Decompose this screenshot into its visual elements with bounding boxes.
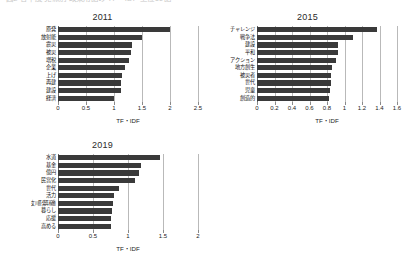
category-label: 創造的 <box>240 96 255 101</box>
category-label: 児童 <box>245 88 255 93</box>
bar <box>58 42 132 47</box>
x-tick-label: 1.4 <box>375 105 383 112</box>
category-label: 水道 <box>46 155 56 160</box>
category-label: 基金 <box>46 163 56 168</box>
bar-row: 建設 <box>257 42 397 47</box>
bar-row: 水道 <box>58 155 198 160</box>
bar-row: チャレンジ <box>257 27 397 32</box>
category-label: 応援 <box>46 216 56 221</box>
bar-row: 世代 <box>257 80 397 85</box>
x-tick-label: 1.6 <box>393 105 401 112</box>
bar <box>257 96 329 101</box>
bar <box>58 163 141 168</box>
bar-row: アクション <box>257 58 397 63</box>
bar <box>257 73 331 78</box>
bar-row: 基金 <box>58 163 198 168</box>
category-label: 億円 <box>46 170 56 175</box>
x-tick-label: 0.5 <box>82 105 90 112</box>
plot-area-2019: 水道基金億円民営化世代活力女川原発再稼働暮らし応援高める <box>58 154 198 230</box>
x-axis-title-2019: TF・IDF <box>28 244 228 253</box>
x-tick-label: 0 <box>255 105 258 112</box>
category-label: 建設 <box>46 88 56 93</box>
bar <box>58 27 170 32</box>
bar <box>257 35 353 40</box>
x-tick-label: 1.5 <box>138 105 146 112</box>
chart-title-2015: 2015 <box>205 12 410 22</box>
bar-row: 被災 <box>58 50 198 55</box>
category-label: 上げ <box>46 73 56 78</box>
chart-panel-2011: 2011 原発放射能震災被災増税企業上げ再建建設経済 00.511.522.5 … <box>0 12 205 132</box>
bar <box>257 58 336 63</box>
category-label: 震災 <box>46 42 56 47</box>
chart-title-2019: 2019 <box>0 140 205 150</box>
x-tick-label: 0.8 <box>323 105 331 112</box>
bar-row: 創造的 <box>257 96 397 101</box>
bar <box>257 50 338 55</box>
bar <box>58 216 111 221</box>
bar <box>58 208 112 213</box>
category-label: 地方創生 <box>235 65 255 70</box>
bar-row: 被災者 <box>257 73 397 78</box>
bar <box>58 170 139 175</box>
bar-row: 暮らし <box>58 208 198 213</box>
category-label: 被災者 <box>240 73 255 78</box>
category-label: 活力 <box>46 193 56 198</box>
category-label: 建設 <box>245 42 255 47</box>
bar-row: 企業 <box>58 65 198 70</box>
bar-row: 震災 <box>58 42 198 47</box>
category-label: アクション <box>230 58 255 63</box>
bar <box>58 80 121 85</box>
category-label: 経済 <box>46 96 56 101</box>
category-label: 被災 <box>46 50 56 55</box>
category-label: 女川原発再稼働 <box>31 201 56 206</box>
bar <box>257 65 332 70</box>
bars-2011: 原発放射能震災被災増税企業上げ再建建設経済 <box>58 26 198 102</box>
plot-area-2015: チャレンジ戦争法建設平和アクション地方創生被災者世代児童創造的 <box>257 26 397 102</box>
x-tick-label: 1.2 <box>358 105 366 112</box>
bar-row: 地方創生 <box>257 65 397 70</box>
category-label: 企業 <box>46 65 56 70</box>
figure-caption: 図2 各年度 党派別 政策用語の TF・IDF 上位10語 <box>0 0 410 12</box>
bar-row: 女川原発再稼働 <box>58 201 198 206</box>
bar-row: 原発 <box>58 27 198 32</box>
bar-row: 上げ <box>58 73 198 78</box>
bar <box>257 27 377 32</box>
figure-root: 図2 各年度 党派別 政策用語の TF・IDF 上位10語 2011 原発放射能… <box>0 0 410 268</box>
bar-row: 応援 <box>58 216 198 221</box>
bar <box>58 50 131 55</box>
x-tick-label: 0.5 <box>89 233 97 240</box>
category-label: 暮らし <box>41 208 56 213</box>
bar <box>58 35 142 40</box>
bar <box>58 193 114 198</box>
x-tick-label: 1 <box>112 105 115 112</box>
category-label: 高める <box>41 224 56 229</box>
x-tick-label: 2 <box>196 233 199 240</box>
x-tick-label: 0 <box>56 105 59 112</box>
bar-row: 世代 <box>58 186 198 191</box>
bar <box>58 88 121 93</box>
category-label: 民営化 <box>41 178 56 183</box>
chart-title-2011: 2011 <box>0 12 205 22</box>
x-axis-title-2011: TF・IDF <box>28 116 228 125</box>
x-tick-label: 1 <box>126 233 129 240</box>
chart-panel-2019: 2019 水道基金億円民営化世代活力女川原発再稼働暮らし応援高める 00.511… <box>0 140 205 260</box>
x-tick-label: 1 <box>343 105 346 112</box>
bar <box>58 96 114 101</box>
category-label: チャレンジ <box>230 27 255 32</box>
bar-row: 戦争法 <box>257 35 397 40</box>
figure-caption-text: 図2 各年度 党派別 政策用語の TF・IDF 上位10語 <box>6 0 410 2</box>
bars-2015: チャレンジ戦争法建設平和アクション地方創生被災者世代児童創造的 <box>257 26 397 102</box>
bar-row: 億円 <box>58 170 198 175</box>
bar-row: 高める <box>58 224 198 229</box>
bar <box>257 80 331 85</box>
bar-row: 民営化 <box>58 178 198 183</box>
bar-row: 増税 <box>58 58 198 63</box>
bar-row: 建設 <box>58 88 198 93</box>
bar <box>58 155 160 160</box>
bar <box>58 201 113 206</box>
bar <box>257 88 330 93</box>
bar-row: 平和 <box>257 50 397 55</box>
x-tick-label: 0 <box>56 233 59 240</box>
bar-row: 経済 <box>58 96 198 101</box>
category-label: 原発 <box>46 27 56 32</box>
